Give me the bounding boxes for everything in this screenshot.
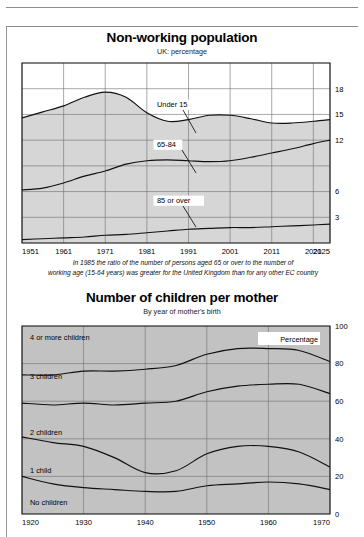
x-tick-label: 1951 <box>22 247 39 256</box>
y-tick-label: 60 <box>335 397 343 406</box>
x-tick-label: 1950 <box>198 518 215 527</box>
band-label: 85 or over <box>157 196 191 205</box>
band-label: 1 child <box>30 466 51 475</box>
chart2-plot[interactable]: 020406080100192019301940195019601970Perc… <box>0 318 364 534</box>
x-tick-label: 1961 <box>55 247 72 256</box>
chart-non-working-population: Non-working population UK: percentage <box>0 30 364 56</box>
y-tick-label: 18 <box>335 85 343 94</box>
x-tick-label: 1971 <box>97 247 114 256</box>
chart2-subtitle: By year of mother's birth <box>0 307 364 316</box>
x-tick-label: 2001 <box>222 247 239 256</box>
chart-children-per-mother: Number of children per mother By year of… <box>0 290 364 316</box>
x-tick-label: 1981 <box>138 247 155 256</box>
x-tick-label: 1991 <box>180 247 197 256</box>
band-label: 4 or more children <box>30 333 90 342</box>
x-tick-label: 1970 <box>313 518 330 527</box>
y-tick-label: 80 <box>335 359 343 368</box>
y-tick-label: 100 <box>335 322 348 331</box>
chart1-caption-line1: In 1985 the ratio of the number of perso… <box>22 258 344 268</box>
chart2-legend: Percentage <box>280 335 318 344</box>
x-tick-label: 1920 <box>22 518 39 527</box>
chart1-title: Non-working population <box>0 30 364 45</box>
band-label: 3 children <box>30 372 62 381</box>
y-tick-label: 15 <box>335 110 343 119</box>
x-tick-label: 1930 <box>75 518 92 527</box>
x-tick-label: 2025 <box>313 247 330 256</box>
x-tick-label: 1960 <box>260 518 277 527</box>
chart2-title: Number of children per mother <box>0 290 364 305</box>
chart1-caption: In 1985 the ratio of the number of perso… <box>22 258 344 278</box>
top-divider <box>6 7 358 8</box>
chart1-caption-line2: working age (15-64 years) was greater fo… <box>22 268 344 278</box>
band-label: Under 15 <box>157 100 187 109</box>
y-tick-label: 12 <box>335 136 343 145</box>
x-tick-label: 1940 <box>137 518 154 527</box>
chart1-plot[interactable]: 3612151819511961197119811991200120112021… <box>0 55 364 265</box>
y-tick-label: 40 <box>335 435 343 444</box>
y-tick-label: 20 <box>335 472 343 481</box>
y-tick-label: 0 <box>335 510 339 519</box>
page-root: Non-working population UK: percentage 36… <box>0 0 364 537</box>
y-tick-label: 6 <box>335 187 339 196</box>
band-label: 2 children <box>30 428 62 437</box>
band-label: 65-84 <box>157 140 176 149</box>
y-tick-label: 3 <box>335 213 339 222</box>
x-tick-label: 2011 <box>264 247 280 256</box>
band-label: No children <box>30 498 67 507</box>
